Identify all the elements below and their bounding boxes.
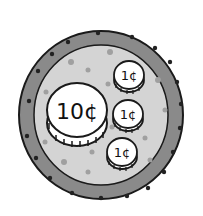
coin-1-cent: 1¢ [114,61,144,94]
coin-label: 1¢ [114,145,131,160]
coin-plate-illustration: 10¢ 1¢ 1¢ 1¢ [0,0,203,216]
coin-1-cent: 1¢ [113,100,143,133]
coin-label: 1¢ [121,68,138,83]
coin-label: 10¢ [56,99,98,124]
coin-label: 1¢ [120,107,137,122]
coin-1-cent: 1¢ [107,138,137,171]
coin-10-cent: 10¢ [47,83,107,147]
